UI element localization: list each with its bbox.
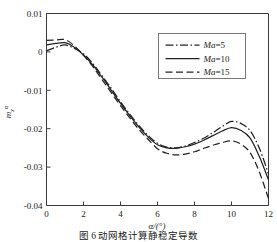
x-tick-label: 6	[155, 209, 160, 219]
x-tick-label: 8	[192, 209, 197, 219]
x-tick-label: 10	[227, 209, 237, 219]
svg-text:mzα: mzα	[2, 105, 15, 118]
y-tick-label: -0.04	[24, 201, 43, 211]
x-tick-label: 12	[264, 209, 273, 219]
static-stability-derivative-chart: 024681012 0.010-0.01-0.02-0.03-0.04 α/(°…	[0, 0, 277, 242]
y-tick-label: -0.03	[24, 162, 43, 172]
figure-container: 024681012 0.010-0.01-0.02-0.03-0.04 α/(°…	[0, 0, 277, 242]
y-axis-title: mzα	[2, 105, 15, 118]
y-tick-label: -0.01	[24, 86, 43, 96]
y-axis-ticks	[47, 14, 51, 206]
x-tick-label: 0	[44, 209, 49, 219]
y-axis-tick-labels: 0.010-0.01-0.02-0.03-0.04	[24, 9, 43, 211]
x-axis-ticks	[47, 202, 269, 206]
x-axis-tick-labels: 024681012	[44, 209, 273, 219]
x-tick-label: 4	[118, 209, 123, 219]
y-tick-label: -0.02	[24, 124, 43, 134]
legend-label-ma-15: Ma=15	[203, 67, 231, 77]
legend-label-ma-5: Ma=5	[203, 40, 226, 50]
y-tick-label: 0	[38, 47, 43, 57]
x-tick-label: 2	[81, 209, 86, 219]
figure-caption: 图 6 动网格计算静稳定导数	[0, 228, 277, 242]
y-tick-label: 0.01	[27, 9, 43, 19]
chart-legend: Ma=5Ma=10Ma=15	[159, 34, 246, 79]
legend-label-ma-10: Ma=10	[203, 54, 231, 64]
